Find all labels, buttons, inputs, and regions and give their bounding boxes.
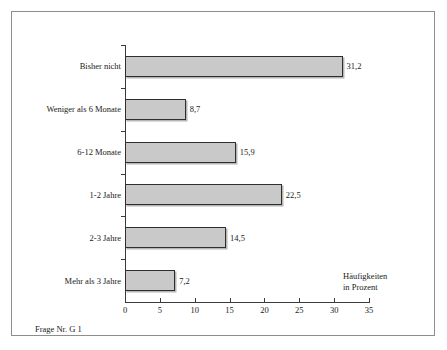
category-label: 1-2 Jahre — [90, 190, 121, 200]
x-axis-tick-label: 5 — [145, 305, 175, 315]
footnote: Frage Nr. G 1 — [35, 324, 82, 335]
bar-value-label: 22,5 — [286, 190, 301, 200]
bar — [125, 270, 175, 291]
x-axis-tick — [230, 298, 231, 303]
x-axis-tick — [299, 298, 300, 303]
category-label: Mehr als 3 Jahre — [65, 276, 121, 286]
x-axis-tick-label: 30 — [319, 305, 349, 315]
x-axis-title: Häufigkeiten in Prozent — [343, 271, 387, 292]
bar-value-label: 14,5 — [230, 233, 245, 243]
x-axis-tick-label: 10 — [180, 305, 210, 315]
bar — [125, 99, 186, 120]
y-axis-tick — [121, 216, 126, 217]
category-label: Weniger als 6 Monate — [46, 104, 121, 114]
bar-value-label: 31,2 — [347, 61, 362, 71]
x-axis-title-line1: Häufigkeiten — [343, 271, 387, 282]
x-axis-tick — [160, 298, 161, 303]
y-axis-tick — [121, 88, 126, 89]
chart-frame: Bisher nichtWeniger als 6 Monate6-12 Mon… — [11, 11, 435, 336]
x-axis-tick-label: 15 — [215, 305, 245, 315]
y-axis-tick — [121, 131, 126, 132]
bar-value-label: 8,7 — [190, 104, 201, 114]
category-label: Bisher nicht — [80, 61, 121, 71]
category-label: 6-12 Monate — [77, 147, 121, 157]
x-axis-tick — [334, 298, 335, 303]
y-axis-tick — [121, 259, 126, 260]
y-axis-tick — [121, 174, 126, 175]
category-labels: Bisher nichtWeniger als 6 Monate6-12 Mon… — [24, 45, 121, 303]
bar-value-label: 15,9 — [240, 147, 255, 157]
category-label: 2-3 Jahre — [90, 233, 121, 243]
x-axis-tick — [369, 298, 370, 303]
x-axis-tick — [125, 298, 126, 303]
x-axis-tick — [195, 298, 196, 303]
bar — [125, 142, 236, 163]
y-axis-tick — [121, 45, 126, 46]
x-axis-tick-label: 20 — [249, 305, 279, 315]
bar-value-label: 7,2 — [179, 276, 190, 286]
plot-area: 31,28,715,922,514,57,2 — [125, 45, 369, 302]
x-axis-tick-label: 25 — [284, 305, 314, 315]
bar — [125, 56, 343, 77]
bar — [125, 184, 282, 205]
x-axis-tick — [264, 298, 265, 303]
x-axis-tick-label: 35 — [354, 305, 384, 315]
chart-figure: Bisher nichtWeniger als 6 Monate6-12 Mon… — [0, 0, 447, 350]
x-axis-tick-label: 0 — [110, 305, 140, 315]
x-axis-title-line2: in Prozent — [343, 282, 387, 293]
bar — [125, 227, 226, 248]
